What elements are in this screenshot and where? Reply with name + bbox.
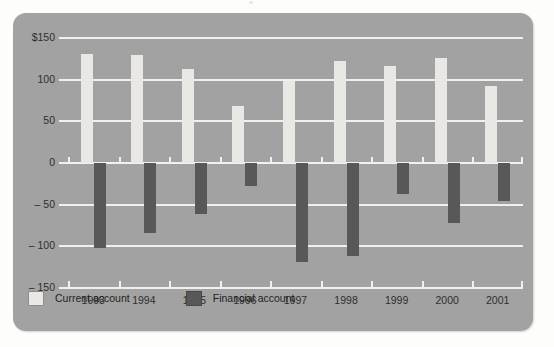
chart-panel: $150100500– 50– 100– 1501993199419951996… [13,13,533,331]
legend-swatch-current-account [28,291,44,306]
zero-axis-tick-2000 [422,157,424,163]
chart-legend: Current account Financial account [28,285,350,311]
x-axis-tick-2000 [422,281,424,288]
x-axis-label-2001: 2001 [473,295,523,306]
bar-current-account-1994 [131,55,143,163]
zero-axis-tick-1994 [119,157,121,163]
bar-current-account-1993 [81,54,93,163]
zero-axis-tick-end [521,157,523,163]
chart-figure: $150100500– 50– 100– 1501993199419951996… [0,0,554,347]
y-axis-tick-150 [59,37,68,39]
y-axis-tick-100 [59,79,68,81]
legend-label-current-account: Current account [55,292,130,304]
x-axis-tick-end [521,281,523,288]
x-axis-label-2000: 2000 [422,295,472,306]
bar-current-account-1998 [334,61,346,163]
bar-current-account-1999 [384,66,396,164]
bar-financial-account-1994 [144,163,156,233]
bar-current-account-2001 [485,86,497,163]
x-axis-label-1999: 1999 [372,295,422,306]
gridline-150 [68,37,523,39]
y-axis-label-100: 100 [11,74,55,85]
y-axis-label-0: 0 [11,157,55,168]
zero-axis-tick-1996 [220,157,222,163]
plot-area: $150100500– 50– 100– 1501993199419951996… [68,38,523,288]
zero-axis-tick-1998 [321,157,323,163]
y-axis-label--50: – 50 [11,199,55,210]
legend-item-current-account[interactable]: Current account [28,291,130,306]
y-axis-tick-50 [59,120,68,122]
bar-financial-account-1995 [195,163,207,214]
bar-current-account-1996 [232,106,244,163]
zero-axis-tick-2001 [472,157,474,163]
y-axis-label--100: – 100 [11,240,55,251]
y-axis-label-50: 50 [11,115,55,126]
bar-current-account-1995 [182,69,194,163]
decorative-speck [249,1,253,4]
y-axis-tick--50 [59,204,68,206]
zero-axis-tick-1993 [68,157,70,163]
legend-label-financial-account: Financial account [213,292,295,304]
zero-axis-tick-1997 [270,157,272,163]
legend-item-financial-account[interactable]: Financial account [186,291,295,306]
bar-current-account-1997 [283,81,295,163]
bar-financial-account-1997 [296,163,308,262]
bar-financial-account-2001 [498,163,510,201]
y-axis-tick--100 [59,245,68,247]
bar-financial-account-1993 [94,163,106,248]
x-axis-tick-1999 [371,281,373,288]
bar-financial-account-1999 [397,163,409,194]
y-axis-tick-0 [59,162,68,164]
zero-axis-tick-1999 [371,157,373,163]
legend-swatch-financial-account [186,291,202,306]
zero-axis-tick-1995 [169,157,171,163]
bar-financial-account-1996 [245,163,257,186]
bar-financial-account-1998 [347,163,359,256]
y-axis-label-150: $150 [11,32,55,43]
bar-current-account-2000 [435,58,447,163]
x-axis-tick-2001 [472,281,474,288]
bar-financial-account-2000 [448,163,460,223]
